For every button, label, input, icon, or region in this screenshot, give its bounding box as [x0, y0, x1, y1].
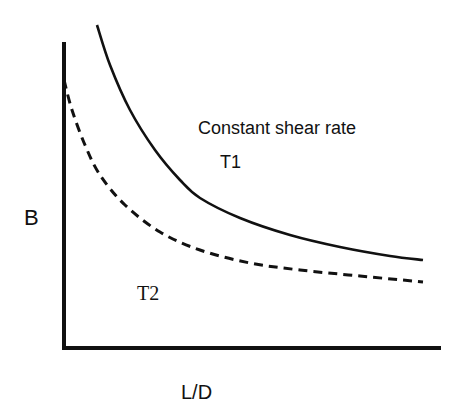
t2-label: T2 — [137, 282, 159, 304]
annotation-label: Constant shear rate — [198, 118, 356, 138]
curve-t1 — [97, 25, 423, 260]
chart: Constant shear rate T1 T2 B L/D — [0, 0, 465, 420]
y-axis-label: B — [24, 205, 39, 230]
t1-label: T1 — [220, 152, 241, 172]
x-axis-label: L/D — [181, 381, 212, 403]
